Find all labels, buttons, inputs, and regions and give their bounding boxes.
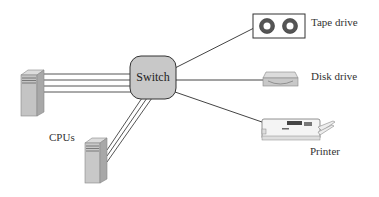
- cpu1-links: [44, 74, 131, 92]
- diagram-canvas: [0, 0, 379, 197]
- cpus-label: CPUs: [49, 131, 75, 143]
- disk-drive-label: Disk drive: [311, 70, 357, 82]
- disk-drive-icon: [263, 72, 298, 86]
- cpu2-links: [107, 98, 152, 162]
- device-links: [175, 28, 264, 122]
- switch-label: Switch: [130, 70, 176, 85]
- cpu-server-icon: [85, 138, 107, 183]
- cpu-server-icon: [21, 70, 44, 116]
- printer-label: Printer: [310, 145, 340, 157]
- tape-drive-icon: [253, 14, 305, 38]
- printer-icon: [262, 119, 335, 140]
- tape-drive-label: Tape drive: [311, 16, 358, 28]
